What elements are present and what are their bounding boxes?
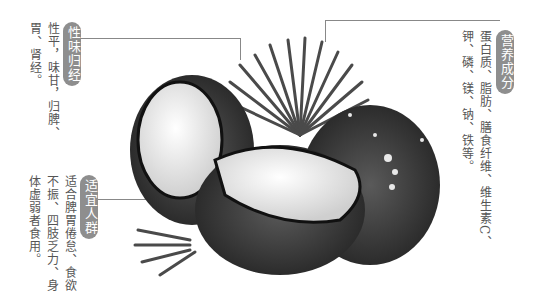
nutrition-text-line-1: 蛋白质、脂肪、膳食纤维、维生素C、: [476, 30, 491, 248]
suitable-label-pill: 适宜人群: [80, 175, 98, 239]
suitable-text-line-3: 体虚弱者食用。: [25, 175, 40, 266]
nutrition-connector-line: [325, 20, 500, 21]
nutrition-label-pill: 营养成分: [496, 30, 514, 94]
nutrition-text-line-2: 钾、磷、镁、钠、铁等。: [458, 30, 473, 173]
nature-text-line-1: 性平，味甘，归脾、: [44, 22, 59, 139]
nature-label-pill: 性味归经: [63, 22, 81, 86]
suitable-text-line-2: 不振、四肢乏力、身: [43, 175, 58, 292]
suitable-text-line-1: 适合脾胃倦怠、食欲: [61, 175, 76, 292]
nature-text-line-2: 胃、肾经。: [26, 22, 41, 87]
coconut-illustration: [130, 30, 440, 280]
